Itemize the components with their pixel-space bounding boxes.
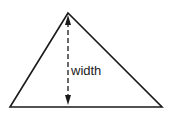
arrowhead-down-icon [65, 95, 71, 105]
triangle-shape [10, 13, 162, 107]
width-label: width [71, 63, 101, 79]
triangle-diagram [0, 0, 171, 117]
